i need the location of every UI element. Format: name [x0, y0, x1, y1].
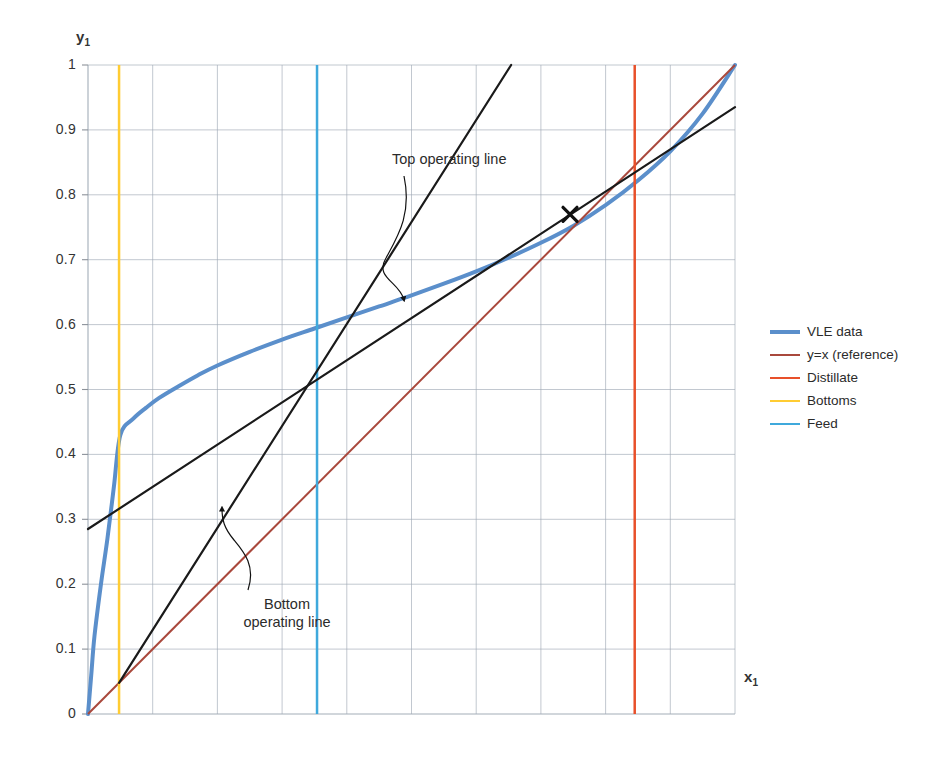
legend-label: Bottoms	[807, 393, 857, 408]
legend-item[interactable]: Distillate	[770, 366, 898, 389]
marker-step-cross	[563, 207, 577, 221]
y-axis-tick-label: 0.4	[34, 445, 76, 461]
legend-swatch-icon	[770, 377, 800, 379]
legend-item[interactable]: VLE data	[770, 320, 898, 343]
legend-item[interactable]: Bottoms	[770, 389, 898, 412]
legend-label: Distillate	[807, 370, 858, 385]
y-axis-title-text: y	[76, 28, 85, 45]
x-axis-title: x1	[744, 668, 758, 688]
y-axis-tick-label: 0	[34, 705, 76, 721]
y-axis-tick-label: 1	[34, 56, 76, 72]
x-axis-title-text: x	[744, 668, 753, 685]
annotation-top-operating-line-text: Top operating line	[392, 151, 506, 167]
legend-item[interactable]: Feed	[770, 412, 898, 435]
legend-item[interactable]: y=x (reference)	[770, 343, 898, 366]
legend-swatch-icon	[770, 400, 800, 402]
chart-legend: VLE datay=x (reference)DistillateBottoms…	[770, 320, 898, 435]
legend-label: VLE data	[807, 324, 863, 339]
y-axis-tick-label: 0.6	[34, 316, 76, 332]
annotation-leaders-layer	[222, 176, 406, 590]
vle-mccabe-thiele-chart: y1 x1 00.10.20.30.40.50.60.70.80.91 Top …	[0, 0, 952, 758]
y-axis-tick-label: 0.1	[34, 640, 76, 656]
annotation-bottom-operating-line-line1: Bottom	[222, 595, 352, 613]
y-axis-tick-label: 0.7	[34, 251, 76, 267]
markers-layer	[563, 207, 577, 221]
y-axis-title: y1	[76, 28, 90, 48]
x-axis-title-subscript: 1	[753, 677, 759, 688]
y-axis-title-subscript: 1	[85, 37, 91, 48]
y-axis-tick-label: 0.9	[34, 121, 76, 137]
annotation-top-operating-line: Top operating line	[392, 150, 506, 168]
y-axis-tick-label: 0.8	[34, 186, 76, 202]
y-axis-tick-label: 0.3	[34, 510, 76, 526]
legend-swatch-icon	[770, 423, 800, 425]
leader-bottom-operating-line	[222, 508, 251, 590]
legend-swatch-icon	[770, 354, 800, 356]
legend-swatch-icon	[770, 330, 800, 334]
y-axis-tick-label: 0.5	[34, 381, 76, 397]
legend-label: y=x (reference)	[807, 347, 898, 362]
annotation-bottom-operating-line-line2: operating line	[222, 613, 352, 631]
annotation-bottom-operating-line: Bottom operating line	[222, 595, 352, 631]
y-axis-tick-label: 0.2	[34, 575, 76, 591]
legend-label: Feed	[807, 416, 838, 431]
